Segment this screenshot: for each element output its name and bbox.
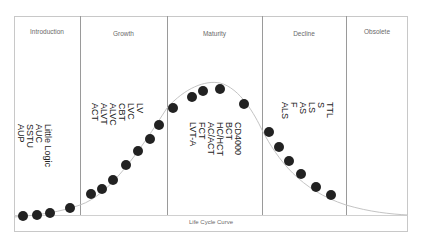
product-dot [168,103,178,113]
product-dot [215,84,225,94]
product-dot [65,203,75,213]
product-dot [311,182,321,192]
product-dot [284,156,294,166]
product-dot [296,169,306,179]
diagram-caption: Life Cycle Curve [14,219,408,225]
product-dot [133,146,143,156]
product-dot [86,189,96,199]
product-dot [198,86,208,96]
product-dot [264,127,274,137]
product-dot [326,190,336,200]
product-dot [121,160,131,170]
product-dot [45,208,55,218]
product-dots [18,84,336,221]
product-dot [145,134,155,144]
product-dot [274,142,284,152]
product-dot [239,99,249,109]
product-dot [108,175,118,185]
curve-line [14,82,408,217]
product-dot [187,92,197,102]
product-dot [154,120,164,130]
product-dot [97,184,107,194]
life-cycle-curve [0,0,422,237]
